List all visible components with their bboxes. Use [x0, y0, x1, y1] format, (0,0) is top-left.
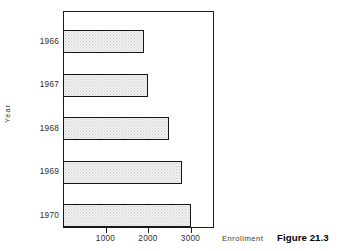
bar-1970 [63, 204, 191, 227]
figure-bar-chart: Year 19661967196819691970 100020003000 E… [0, 0, 339, 251]
y-tick-label-1968: 1968 [15, 124, 59, 133]
bar-1969 [63, 161, 182, 184]
y-tick-label-1967: 1967 [15, 80, 59, 89]
x-tick-2000 [148, 228, 149, 233]
bar-1966 [63, 30, 144, 53]
x-axis-title: Enrollment [222, 234, 263, 243]
x-tick-1000 [106, 228, 107, 233]
x-tick-3000 [191, 228, 192, 233]
y-category-labels: 19661967196819691970 [10, 11, 59, 228]
x-tick-label-1000: 1000 [86, 234, 126, 243]
figure-caption: Figure 21.3 [277, 232, 329, 243]
y-tick-label-1970: 1970 [15, 211, 59, 220]
bars-layer [63, 11, 214, 228]
bar-1968 [63, 117, 169, 140]
y-tick-label-1966: 1966 [15, 37, 59, 46]
x-tick-label-2000: 2000 [128, 234, 168, 243]
y-tick-label-1969: 1969 [15, 167, 59, 176]
bar-1967 [63, 74, 148, 97]
x-tick-label-3000: 3000 [171, 234, 211, 243]
